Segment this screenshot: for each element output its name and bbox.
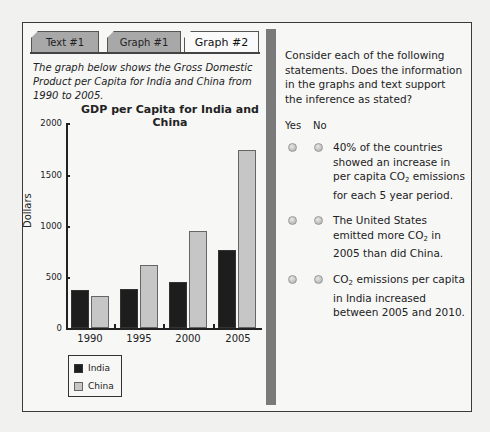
graph-description: The graph below shows the Gross Domestic… xyxy=(33,61,263,103)
no-column-header: No xyxy=(313,120,327,131)
bar-china-2005 xyxy=(238,150,256,328)
legend-item-india: India xyxy=(74,363,110,373)
legend-label-china: China xyxy=(88,381,114,391)
legend-item-china: China xyxy=(74,381,114,391)
bar-india-1995 xyxy=(120,289,138,328)
y-tick-0: 0 xyxy=(32,323,62,333)
tab-graph-1[interactable]: Graph #1 xyxy=(107,31,181,52)
legend-label-india: India xyxy=(88,363,110,373)
bar-china-2000 xyxy=(189,231,207,328)
tab-underline xyxy=(30,52,260,54)
statement-1-no-radio[interactable] xyxy=(314,143,323,152)
statement-2-yes-radio[interactable] xyxy=(288,216,297,225)
statement-3-no-radio[interactable] xyxy=(314,275,323,284)
statement-3-yes-radio[interactable] xyxy=(288,275,297,284)
x-tickmark xyxy=(114,324,116,329)
yes-column-header: Yes xyxy=(285,120,301,131)
bar-india-1990 xyxy=(71,290,89,328)
chart-legend: India China xyxy=(68,355,122,397)
x-label-2005: 2005 xyxy=(218,333,258,344)
bar-china-1995 xyxy=(140,265,158,328)
statement-3: CO2 emissions per capita in India increa… xyxy=(333,272,468,320)
y-tick-2000: 2000 xyxy=(32,118,62,128)
y-axis xyxy=(66,123,68,329)
bar-china-1990 xyxy=(91,296,109,328)
x-tickmark xyxy=(163,324,165,329)
panel-divider[interactable] xyxy=(266,29,276,405)
tab-graph-2[interactable]: Graph #2 xyxy=(184,31,259,52)
question-prompt: Consider each of the following statement… xyxy=(285,48,465,106)
china-swatch xyxy=(74,382,83,391)
india-swatch xyxy=(74,364,83,373)
y-tick-1500: 1500 xyxy=(32,170,62,180)
tab-bar: Text #1 Graph #1 Graph #2 xyxy=(31,31,259,53)
bar-india-2005 xyxy=(218,250,236,328)
bar-india-2000 xyxy=(169,282,187,328)
tab-text-1[interactable]: Text #1 xyxy=(31,31,99,52)
statement-2-no-radio[interactable] xyxy=(314,216,323,225)
statement-1: 40% of the countries showed an increase … xyxy=(333,140,468,202)
statement-2: The United States emitted more CO2 in 20… xyxy=(333,213,468,261)
y-tick-500: 500 xyxy=(32,272,62,282)
x-label-1995: 1995 xyxy=(119,333,159,344)
x-label-1990: 1990 xyxy=(70,333,110,344)
chart-title: GDP per Capita for India and China xyxy=(80,103,260,129)
statement-1-yes-radio[interactable] xyxy=(288,143,297,152)
y-tick-1000: 1000 xyxy=(32,221,62,231)
x-label-2000: 2000 xyxy=(168,333,208,344)
x-tickmark xyxy=(213,324,215,329)
